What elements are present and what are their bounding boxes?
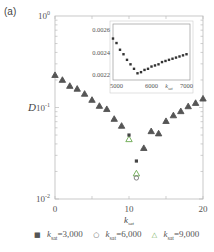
svg-text:20: 20 (199, 204, 209, 214)
circle-marker-icon: ○ (93, 231, 99, 239)
svg-text:ksat: ksat (124, 215, 134, 226)
square-marker-icon: ■ (34, 231, 41, 239)
triangle-marker-icon: △ (152, 231, 157, 239)
svg-text:100: 100 (38, 10, 50, 21)
svg-text:0.0026: 0.0026 (92, 26, 111, 33)
chart: 0102010-210-1100Dksat0.00220.00240.00265… (0, 0, 214, 252)
svg-text:D: D (27, 101, 36, 113)
svg-text:5000: 5000 (110, 82, 123, 89)
legend-item-ksat-3000: ■ ksat=3,000 (34, 229, 89, 239)
svg-text:0: 0 (53, 204, 58, 214)
svg-text:7000: 7000 (180, 82, 193, 89)
legend: ■ ksat=3,000 ○ ksat=6,000 △ ksat=9,000 (34, 229, 207, 241)
legend-item-ksat-9000: △ ksat=9,000 (152, 229, 204, 239)
svg-text:6000: 6000 (145, 82, 158, 89)
inset-plot: 0.00220.00240.0026500060007000ksat (92, 21, 193, 93)
svg-text:10-2: 10-2 (36, 193, 50, 204)
svg-text:10-1: 10-1 (36, 102, 50, 113)
svg-text:10: 10 (125, 204, 135, 214)
legend-item-ksat-6000: ○ ksat=6,000 (93, 229, 148, 239)
svg-text:0.0024: 0.0024 (92, 49, 111, 56)
svg-text:0.0022: 0.0022 (92, 71, 110, 78)
